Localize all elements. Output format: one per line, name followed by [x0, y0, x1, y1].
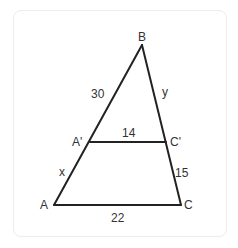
vertex-label-a: A — [40, 198, 48, 212]
length-label-ba-prime: 30 — [91, 87, 105, 101]
length-label-a-prime-a: x — [59, 165, 65, 179]
vertex-label-a-prime: A' — [72, 135, 82, 149]
vertex-label-c: C — [184, 198, 193, 212]
length-label-c-prime-c: 15 — [175, 166, 189, 180]
length-label-bc-prime: y — [162, 85, 168, 99]
triangle-diagram: B A' C' A C 30 y 14 x 15 22 — [0, 0, 238, 248]
vertex-label-c-prime: C' — [170, 135, 181, 149]
length-label-a-prime-c-prime: 14 — [122, 126, 136, 140]
side-ba — [54, 45, 142, 205]
side-bc — [142, 45, 181, 205]
length-label-ac: 22 — [111, 211, 125, 225]
vertex-label-b: B — [138, 30, 146, 44]
